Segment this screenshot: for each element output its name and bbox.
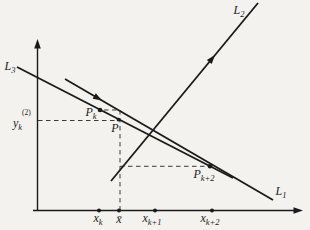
label-xk: xk — [93, 212, 102, 226]
label-Pk: Pk — [85, 106, 96, 120]
label-xbar: x̄ — [116, 213, 121, 225]
label-L1: L1 — [276, 185, 287, 199]
figure-canvas: L3 L2 L1 Pk P Pk+2 (2) yk xk x̄ xk+1 xk+… — [0, 0, 310, 230]
label-yk2: (2) yk — [13, 109, 31, 131]
point-Pk-dot — [98, 108, 103, 113]
label-Pk2: Pk+2 — [193, 168, 214, 182]
label-xk1: xk+1 — [142, 212, 161, 226]
label-P: P — [111, 122, 118, 134]
diagram-geometry — [0, 0, 310, 230]
line-L3 — [17, 67, 233, 178]
y-axis-arrow-icon — [34, 39, 41, 49]
label-L3: L3 — [5, 60, 16, 74]
label-L2: L2 — [234, 4, 245, 18]
x-axis-arrow-icon — [294, 207, 304, 214]
line-L2 — [111, 3, 258, 181]
label-xk2: xk+2 — [200, 212, 219, 226]
line-L1-direction-arrow-icon — [93, 93, 102, 100]
